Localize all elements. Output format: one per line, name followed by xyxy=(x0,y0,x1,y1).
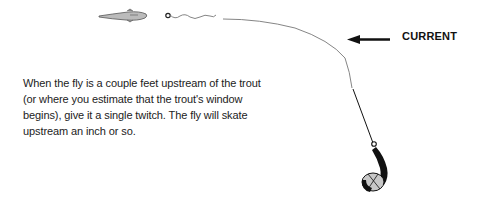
fly-icon xyxy=(166,13,170,17)
caption-line: When the fly is a couple feet upstream o… xyxy=(23,75,323,91)
fishing-rod xyxy=(353,89,373,143)
angler-figure xyxy=(362,142,388,192)
caption-line: (or where you estimate that the trout's … xyxy=(23,91,323,107)
current-arrow-icon xyxy=(347,35,390,44)
instruction-caption: When the fly is a couple feet upstream o… xyxy=(23,75,323,139)
current-label: CURRENT xyxy=(402,30,457,42)
trout-icon xyxy=(99,9,147,22)
caption-line: begins), give it a single twitch. The fl… xyxy=(23,107,323,123)
caption-line: upstream an inch or so. xyxy=(23,123,323,139)
tippet-line xyxy=(170,15,216,19)
